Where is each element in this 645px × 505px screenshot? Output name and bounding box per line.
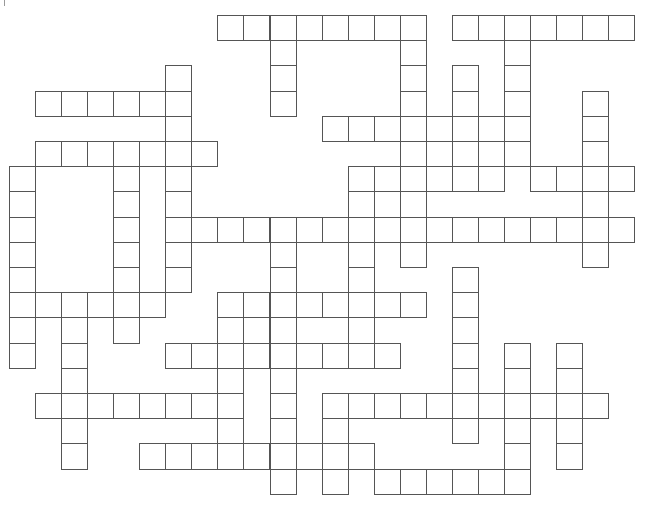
crossword-cell[interactable] (608, 15, 635, 41)
crossword-cell[interactable] (35, 292, 62, 318)
crossword-cell[interactable] (426, 469, 453, 495)
crossword-cell[interactable] (270, 242, 297, 268)
crossword-cell[interactable] (452, 418, 479, 444)
crossword-cell[interactable] (270, 65, 297, 91)
crossword-cell[interactable] (478, 141, 505, 167)
crossword-cell[interactable] (348, 217, 375, 243)
crossword-cell[interactable] (478, 217, 505, 243)
crossword-cell[interactable] (61, 368, 88, 394)
crossword-cell[interactable] (582, 91, 609, 117)
crossword-cell[interactable] (113, 191, 140, 217)
crossword-cell[interactable] (504, 393, 531, 419)
crossword-cell[interactable] (165, 443, 192, 469)
crossword-cell[interactable] (582, 393, 609, 419)
crossword-cell[interactable] (530, 217, 557, 243)
crossword-cell[interactable] (556, 443, 583, 469)
crossword-cell[interactable] (165, 343, 192, 369)
crossword-cell[interactable] (504, 141, 531, 167)
crossword-cell[interactable] (452, 166, 479, 192)
crossword-cell[interactable] (452, 317, 479, 343)
crossword-cell[interactable] (61, 343, 88, 369)
crossword-cell[interactable] (478, 15, 505, 41)
crossword-cell[interactable] (400, 166, 427, 192)
crossword-cell[interactable] (452, 65, 479, 91)
crossword-cell[interactable] (348, 393, 375, 419)
crossword-cell[interactable] (217, 217, 244, 243)
crossword-cell[interactable] (400, 65, 427, 91)
crossword-cell[interactable] (217, 317, 244, 343)
crossword-cell[interactable] (348, 317, 375, 343)
crossword-cell[interactable] (452, 91, 479, 117)
crossword-cell[interactable] (452, 343, 479, 369)
crossword-cell[interactable] (296, 217, 323, 243)
crossword-cell[interactable] (426, 166, 453, 192)
crossword-cell[interactable] (608, 166, 635, 192)
crossword-cell[interactable] (400, 15, 427, 41)
crossword-cell[interactable] (165, 91, 192, 117)
crossword-cell[interactable] (322, 15, 349, 41)
crossword-cell[interactable] (270, 217, 297, 243)
crossword-cell[interactable] (139, 292, 166, 318)
crossword-cell[interactable] (504, 368, 531, 394)
crossword-cell[interactable] (270, 317, 297, 343)
crossword-cell[interactable] (504, 443, 531, 469)
crossword-cell[interactable] (582, 217, 609, 243)
crossword-cell[interactable] (139, 91, 166, 117)
crossword-cell[interactable] (348, 166, 375, 192)
crossword-cell[interactable] (556, 343, 583, 369)
crossword-cell[interactable] (87, 91, 114, 117)
crossword-cell[interactable] (61, 91, 88, 117)
crossword-cell[interactable] (296, 443, 323, 469)
crossword-cell[interactable] (243, 292, 270, 318)
crossword-cell[interactable] (9, 317, 36, 343)
crossword-cell[interactable] (9, 166, 36, 192)
crossword-cell[interactable] (87, 292, 114, 318)
crossword-cell[interactable] (61, 141, 88, 167)
crossword-cell[interactable] (530, 166, 557, 192)
crossword-cell[interactable] (504, 217, 531, 243)
crossword-cell[interactable] (217, 443, 244, 469)
crossword-cell[interactable] (374, 15, 401, 41)
crossword-cell[interactable] (322, 469, 349, 495)
crossword-cell[interactable] (504, 469, 531, 495)
crossword-cell[interactable] (452, 267, 479, 293)
crossword-cell[interactable] (9, 343, 36, 369)
crossword-cell[interactable] (165, 166, 192, 192)
crossword-cell[interactable] (243, 343, 270, 369)
crossword-cell[interactable] (113, 166, 140, 192)
crossword-cell[interactable] (582, 166, 609, 192)
crossword-cell[interactable] (165, 217, 192, 243)
crossword-cell[interactable] (243, 15, 270, 41)
crossword-cell[interactable] (348, 292, 375, 318)
crossword-cell[interactable] (217, 15, 244, 41)
crossword-cell[interactable] (504, 65, 531, 91)
crossword-cell[interactable] (217, 343, 244, 369)
crossword-cell[interactable] (243, 443, 270, 469)
crossword-cell[interactable] (165, 141, 192, 167)
crossword-cell[interactable] (35, 393, 62, 419)
crossword-cell[interactable] (9, 267, 36, 293)
crossword-cell[interactable] (400, 141, 427, 167)
crossword-cell[interactable] (296, 343, 323, 369)
crossword-cell[interactable] (165, 191, 192, 217)
crossword-cell[interactable] (400, 191, 427, 217)
crossword-cell[interactable] (165, 393, 192, 419)
crossword-cell[interactable] (322, 393, 349, 419)
crossword-cell[interactable] (374, 393, 401, 419)
crossword-cell[interactable] (348, 443, 375, 469)
crossword-cell[interactable] (270, 292, 297, 318)
crossword-cell[interactable] (191, 217, 218, 243)
crossword-cell[interactable] (478, 469, 505, 495)
crossword-cell[interactable] (374, 166, 401, 192)
crossword-cell[interactable] (322, 217, 349, 243)
crossword-cell[interactable] (556, 418, 583, 444)
crossword-cell[interactable] (556, 368, 583, 394)
crossword-cell[interactable] (400, 292, 427, 318)
crossword-cell[interactable] (400, 116, 427, 142)
crossword-cell[interactable] (270, 267, 297, 293)
crossword-cell[interactable] (113, 393, 140, 419)
crossword-cell[interactable] (113, 217, 140, 243)
crossword-cell[interactable] (191, 393, 218, 419)
crossword-cell[interactable] (426, 217, 453, 243)
crossword-cell[interactable] (322, 292, 349, 318)
